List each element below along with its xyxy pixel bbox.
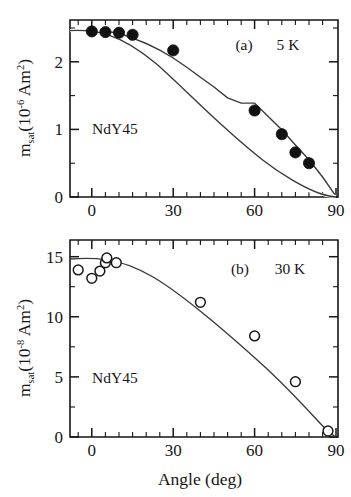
ylabel-paren-close: ) (14, 59, 34, 65)
ytick-label: 5 (55, 368, 64, 387)
ylabel-exponent: -8 (15, 340, 26, 349)
panel-b-yaxis-tick-labels: 0 5 10 15 (46, 248, 63, 447)
data-point (290, 147, 301, 158)
ylabel-m: m (14, 143, 34, 157)
panel-a: 0 30 60 90 0 1 2 msat(10-6 Am2) (a) 5 K (14, 20, 345, 220)
xaxis-title: Angle (deg) (158, 469, 242, 489)
data-point (113, 27, 124, 38)
data-point (196, 297, 206, 307)
ytick-label: 2 (55, 53, 64, 72)
panel-a-yaxis-title: msat(10-6 Am2) (14, 59, 36, 157)
panel-b-yaxis-title: msat(10-8 Am2) (14, 299, 36, 397)
panel-tag-a: (a) (235, 36, 252, 54)
xtick-label: 90 (328, 441, 345, 460)
sample-label-a: NdY45 (92, 120, 138, 137)
xtick-label: 30 (165, 441, 182, 460)
data-point (73, 265, 83, 275)
data-point (100, 26, 111, 37)
panel-b-fit-curve (70, 258, 336, 437)
ytick-label: 0 (55, 188, 64, 207)
data-point (86, 26, 97, 37)
xtick-label: 60 (246, 201, 263, 220)
data-point (291, 377, 301, 387)
panel-b-data-points (73, 253, 333, 436)
ylabel-paren-open: (10 (14, 108, 34, 132)
ylabel-exponent: -6 (15, 100, 26, 109)
svg-text:msat(10-8 Am2): msat(10-8 Am2) (14, 299, 36, 397)
data-point (102, 253, 112, 263)
xtick-label: 0 (88, 201, 97, 220)
ylabel-units: Am (14, 70, 34, 100)
sample-label-b: NdY45 (92, 369, 138, 386)
ytick-label: 1 (55, 120, 64, 139)
xtick-label: 60 (246, 441, 263, 460)
data-point (111, 258, 121, 268)
data-point (87, 273, 97, 283)
scientific-figure: 0 30 60 90 0 1 2 msat(10-6 Am2) (a) 5 K (0, 0, 351, 497)
ytick-label: 0 (55, 428, 64, 447)
data-point (127, 29, 138, 40)
ylabel-paren-open: (10 (14, 348, 34, 372)
ytick-label: 15 (46, 248, 63, 267)
data-point (276, 129, 287, 140)
panel-tag-b: (b) (231, 260, 249, 278)
ylabel-sub: sat (25, 132, 36, 144)
panel-b-label: (b) 30 K (231, 260, 306, 278)
ylabel-paren-close: ) (14, 299, 34, 305)
data-point (168, 45, 179, 56)
data-point (323, 426, 333, 436)
panel-a-xaxis-tick-labels: 0 30 60 90 (88, 201, 345, 220)
ylabel-m: m (14, 383, 34, 397)
data-point (250, 331, 260, 341)
panel-b-yaxis-major-ticks (70, 257, 338, 437)
xtick-label: 0 (88, 441, 97, 460)
panel-a-label: (a) 5 K (235, 36, 300, 54)
panel-b-xaxis-tick-labels: 0 30 60 90 (88, 441, 345, 460)
data-point (249, 105, 260, 116)
panel-a-yaxis-tick-labels: 0 1 2 (55, 53, 64, 207)
ytick-label: 10 (46, 308, 63, 327)
ylabel-sub: sat (25, 372, 36, 384)
svg-text:msat(10-6 Am2): msat(10-6 Am2) (14, 59, 36, 157)
data-point (303, 158, 314, 169)
panel-b: 0 30 60 90 0 5 10 15 msat(10-8 Am2) (b) (14, 240, 345, 460)
panel-temperature-a: 5 K (277, 36, 301, 53)
panel-a-fit-curve-smooth (70, 30, 336, 197)
panel-temperature-b: 30 K (275, 260, 306, 277)
panel-a-fit-curve (70, 30, 336, 196)
xtick-label: 90 (328, 201, 345, 220)
xtick-label: 30 (165, 201, 182, 220)
figure-container: 0 30 60 90 0 1 2 msat(10-6 Am2) (a) 5 K (0, 0, 351, 497)
ylabel-units: Am (14, 310, 34, 340)
